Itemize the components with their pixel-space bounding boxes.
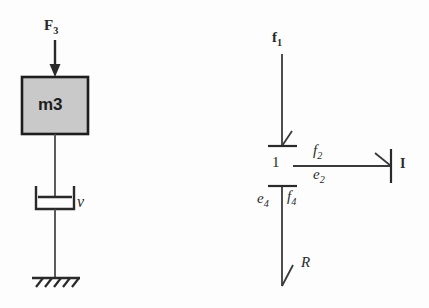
force-label-F3: F3 — [44, 18, 58, 36]
bond-4-half-arrow-icon — [282, 265, 293, 286]
bond-2-flow-subscript: 2 — [317, 150, 322, 161]
bond-4-flow-label: f4 — [287, 189, 296, 207]
ground-hatch-icon — [36, 278, 79, 287]
bond-1-half-arrow-icon — [282, 131, 292, 146]
bond-2-flow-label: f2 — [313, 143, 322, 161]
diagram-canvas — [0, 0, 429, 308]
bond-1-flow-subscript: 1 — [277, 37, 282, 48]
mass-label-m3: m3 — [38, 96, 63, 113]
bond-2-effort-subscript: 2 — [320, 174, 325, 185]
mechanical-system-bond-graph-figure: F3 m3 v f1 1 f2 e2 I e4 f4 R — [0, 0, 429, 308]
force-label-base: F — [44, 17, 53, 33]
resistance-element-label: R — [301, 255, 310, 270]
bond-4-effort-label: e4 — [257, 191, 269, 209]
bond-2-half-arrow-icon — [375, 153, 391, 166]
force-label-subscript: 3 — [53, 25, 58, 36]
bond-4-effort-base: e — [257, 190, 264, 206]
bond-1-flow-label: f1 — [272, 30, 282, 48]
bond-4-effort-subscript: 4 — [264, 198, 269, 209]
bond-2-effort-base: e — [313, 166, 320, 182]
inertia-element-label: I — [400, 157, 405, 171]
damper-label-v: v — [77, 194, 84, 210]
force-arrowhead-icon — [50, 64, 61, 77]
bond-4-flow-subscript: 4 — [291, 196, 296, 207]
one-junction-label: 1 — [272, 155, 280, 170]
bond-2-effort-label: e2 — [313, 167, 325, 185]
